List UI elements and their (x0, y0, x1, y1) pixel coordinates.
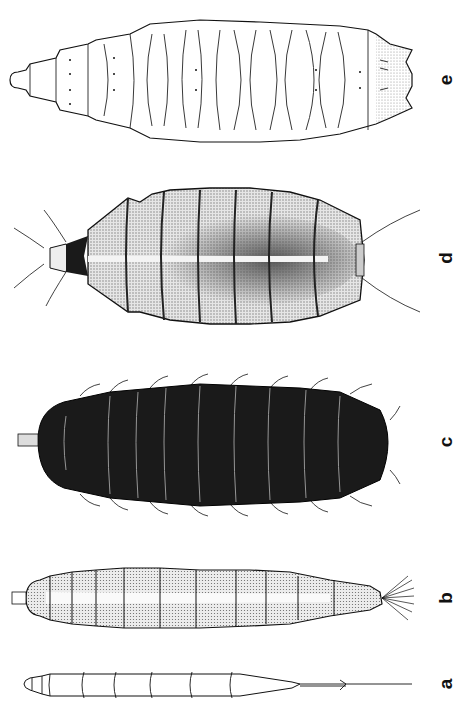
larva-c-drawing (0, 360, 465, 520)
larva-b-drawing (0, 540, 465, 650)
larva-e-drawing (0, 0, 465, 160)
larva-a-drawing (0, 650, 465, 721)
panel-label-c: c (436, 432, 456, 452)
larva-d-panel: d (0, 160, 465, 330)
larva-e-panel: e (0, 0, 465, 160)
larva-b-panel: b (0, 540, 465, 650)
larva-d-drawing (0, 160, 465, 330)
panel-label-d: d (436, 248, 456, 268)
panel-label-a: a (436, 674, 456, 694)
larva-c-panel: c (0, 360, 465, 520)
larva-a-panel: a (0, 650, 465, 721)
larvae-plate: e (0, 0, 465, 721)
panel-label-b: b (436, 588, 456, 608)
panel-label-e: e (436, 70, 456, 90)
